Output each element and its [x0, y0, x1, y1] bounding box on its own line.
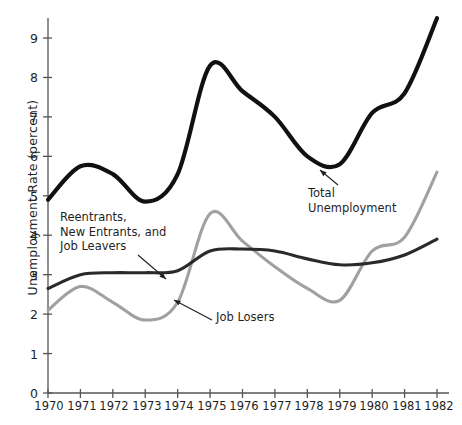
- unemployment-rate-chart: Unemployment Rate (percent) 9 8 7 6 5 4 …: [0, 0, 462, 425]
- series-group: [48, 18, 437, 320]
- plot-area: [0, 0, 462, 425]
- axes-group: [43, 18, 449, 398]
